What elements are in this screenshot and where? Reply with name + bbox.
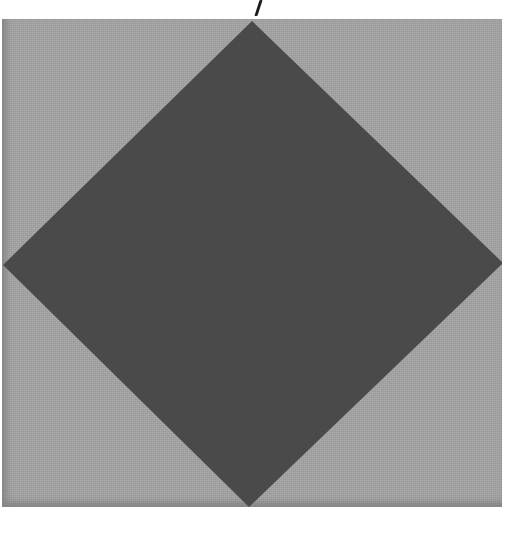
image-canvas (0, 0, 529, 538)
gray-square-tile (2, 19, 502, 507)
dark-diamond-shape (2, 19, 502, 507)
stray-ink-mark (254, 0, 262, 16)
